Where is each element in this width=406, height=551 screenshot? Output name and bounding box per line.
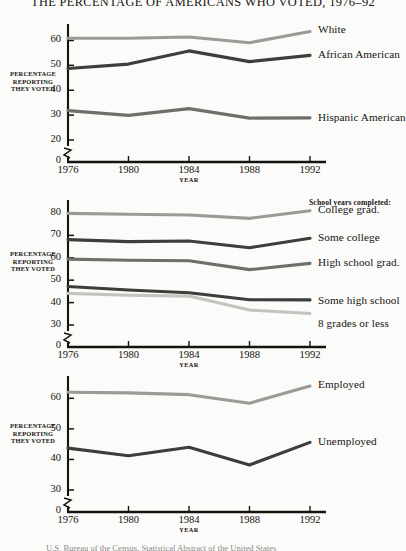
series-label: Employed xyxy=(318,378,365,390)
y-tick-label: 20 xyxy=(37,133,61,144)
y-axis-caption-line3: THEY VOTED xyxy=(0,437,66,445)
series-label: High school grad. xyxy=(318,256,400,268)
series-label: 8 grades or less xyxy=(318,317,389,329)
x-tick-label: 1984 xyxy=(169,164,209,175)
x-tick-label: 1984 xyxy=(169,349,209,360)
x-tick-label: 1988 xyxy=(230,514,270,525)
y-tick-label: 40 xyxy=(37,83,61,94)
series-label: College grad. xyxy=(318,203,380,215)
figure-title: THE PERCENTAGE OF AMERICANS WHO VOTED, 1… xyxy=(0,0,406,10)
series-label: White xyxy=(318,23,346,35)
x-tick-label: 1976 xyxy=(48,164,88,175)
y-tick-label: 30 xyxy=(37,483,61,494)
series-label: Some high school xyxy=(318,294,400,306)
y-tick-label: 30 xyxy=(37,108,61,119)
figure-caption: U.S. Bureau of the Census, Statistical A… xyxy=(46,543,376,551)
x-tick-label: 1988 xyxy=(230,349,270,360)
x-tick-label: 1976 xyxy=(48,514,88,525)
x-tick-label: 1988 xyxy=(230,164,270,175)
y-axis-caption-line3: THEY VOTED xyxy=(0,265,66,273)
series-label: Hispanic American xyxy=(318,111,406,123)
y-tick-label: 60 xyxy=(37,391,61,402)
y-tick-label: 40 xyxy=(37,296,61,307)
series-label: Some college xyxy=(318,231,380,243)
y-tick-label: 50 xyxy=(37,273,61,284)
x-tick-label: 1992 xyxy=(290,164,330,175)
y-axis-caption-line1: PERCENTAGE xyxy=(0,70,66,78)
x-tick-label: 1992 xyxy=(290,349,330,360)
x-tick-label: 1976 xyxy=(48,349,88,360)
x-tick-label: 1992 xyxy=(290,514,330,525)
y-tick-label: 80 xyxy=(37,206,61,217)
y-tick-label: 50 xyxy=(37,422,61,433)
chart-panel-education: PERCENTAGE REPORTING THEY VOTED 30405060… xyxy=(0,182,406,357)
y-tick-label: 60 xyxy=(37,251,61,262)
y-tick-label: 60 xyxy=(37,33,61,44)
x-axis-name: YEAR xyxy=(159,526,219,533)
figure-root: THE PERCENTAGE OF AMERICANS WHO VOTED, 1… xyxy=(0,0,406,551)
y-tick-label: 70 xyxy=(37,228,61,239)
chart-panel-employment: PERCENTAGE REPORTING THEY VOTED 30405060… xyxy=(0,362,406,527)
chart-panel-race: PERCENTAGE REPORTING THEY VOTED 20304050… xyxy=(0,12,406,172)
x-tick-label: 1984 xyxy=(169,514,209,525)
y-tick-label: 50 xyxy=(37,58,61,69)
x-tick-label: 1980 xyxy=(109,164,149,175)
x-tick-label: 1980 xyxy=(109,349,149,360)
y-tick-label: 30 xyxy=(37,318,61,329)
series-label: African American xyxy=(318,48,400,60)
x-tick-label: 1980 xyxy=(109,514,149,525)
series-label: Unemployed xyxy=(318,435,377,447)
y-tick-label: 40 xyxy=(37,452,61,463)
